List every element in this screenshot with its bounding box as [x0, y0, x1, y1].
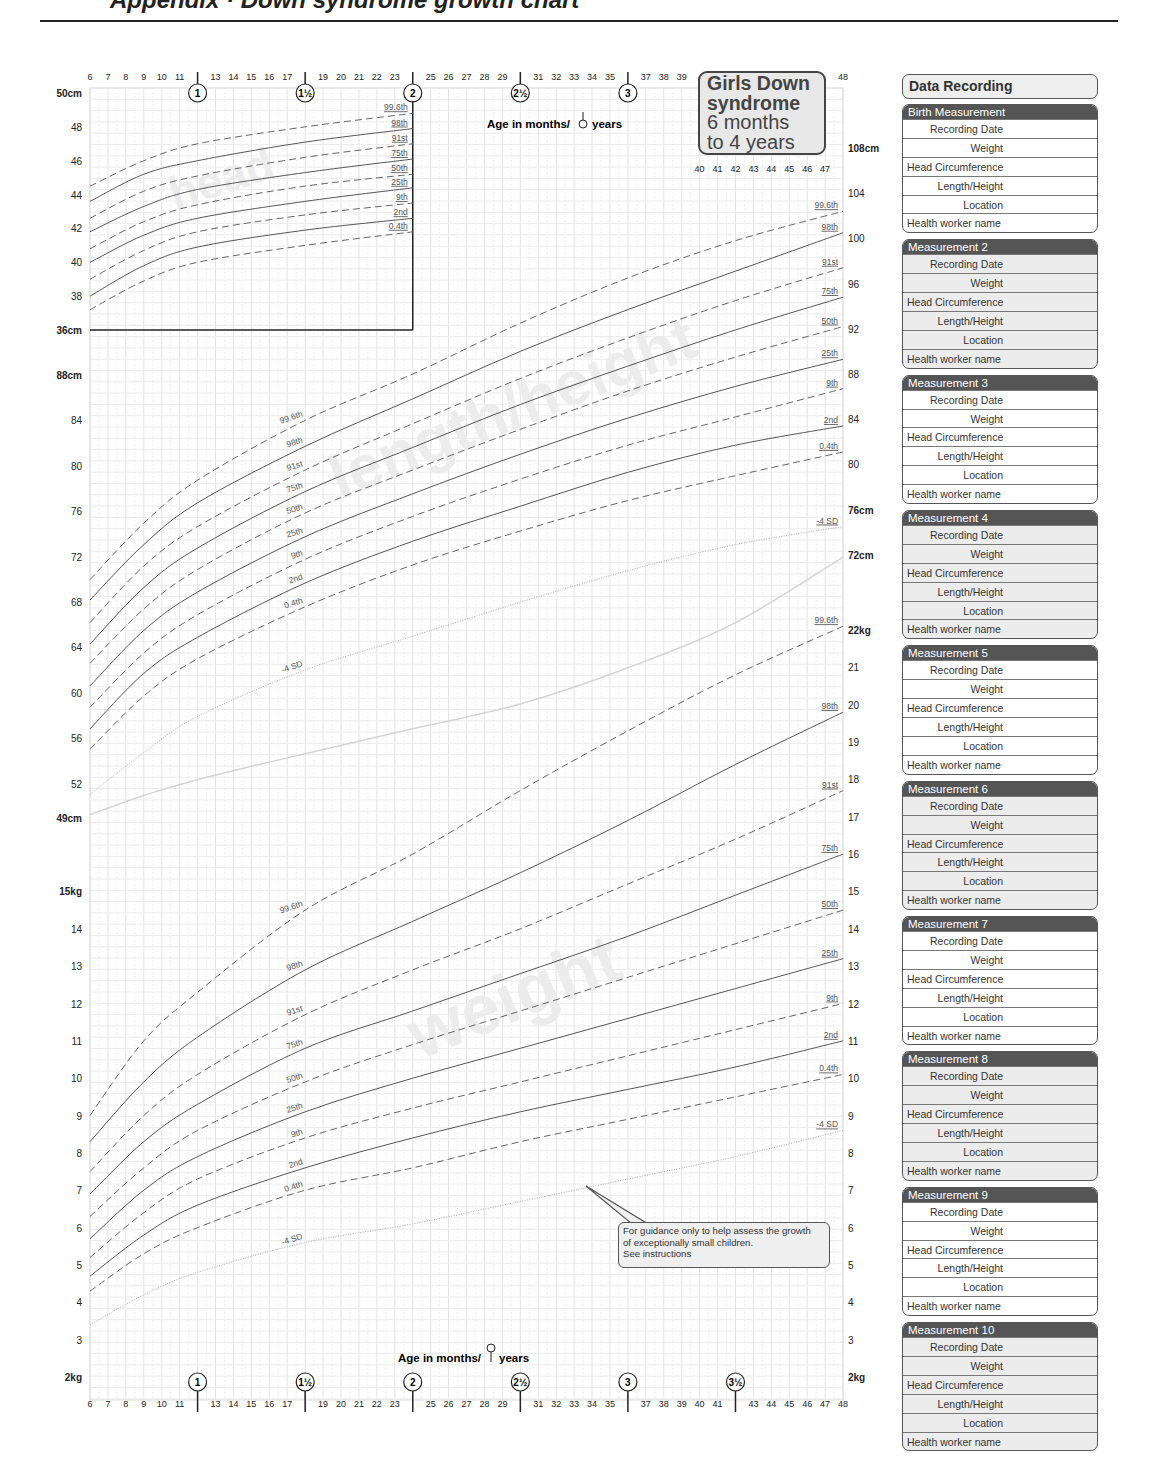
field-recording-date[interactable]: Recording Date	[903, 119, 1097, 138]
svg-text:25: 25	[426, 72, 436, 82]
field-head-circumference[interactable]: Head Circumference	[903, 1375, 1097, 1394]
field-health-worker-name[interactable]: Health worker name	[903, 1161, 1097, 1180]
field-weight[interactable]: Weight	[903, 544, 1097, 563]
svg-text:1: 1	[195, 1377, 201, 1388]
field-weight[interactable]: Weight	[903, 815, 1097, 834]
svg-text:19: 19	[318, 72, 328, 82]
svg-text:8: 8	[123, 1399, 128, 1409]
field-length-height[interactable]: Length/Height	[903, 1394, 1097, 1413]
field-length-height[interactable]: Length/Height	[903, 582, 1097, 601]
field-location[interactable]: Location	[903, 736, 1097, 755]
svg-text:45: 45	[784, 164, 794, 174]
svg-text:41: 41	[713, 1399, 723, 1409]
field-location[interactable]: Location	[903, 1142, 1097, 1161]
field-health-worker-name[interactable]: Health worker name	[903, 1432, 1097, 1451]
field-recording-date[interactable]: Recording Date	[903, 390, 1097, 409]
svg-text:37: 37	[641, 1399, 651, 1409]
field-location[interactable]: Location	[903, 195, 1097, 214]
svg-text:9th: 9th	[289, 1126, 304, 1139]
field-weight[interactable]: Weight	[903, 950, 1097, 969]
field-length-height[interactable]: Length/Height	[903, 311, 1097, 330]
field-weight[interactable]: Weight	[903, 679, 1097, 698]
field-health-worker-name[interactable]: Health worker name	[903, 349, 1097, 368]
field-recording-date[interactable]: Recording Date	[903, 796, 1097, 815]
field-head-circumference[interactable]: Head Circumference	[903, 1104, 1097, 1123]
svg-text:75th: 75th	[822, 286, 839, 296]
svg-text:-4 SD: -4 SD	[280, 658, 304, 674]
measurement-card: Measurement 9Recording DateWeightHead Ci…	[902, 1187, 1098, 1316]
svg-text:45: 45	[784, 1399, 794, 1409]
field-weight[interactable]: Weight	[903, 1085, 1097, 1104]
svg-text:39: 39	[677, 72, 687, 82]
field-head-circumference[interactable]: Head Circumference	[903, 698, 1097, 717]
field-health-worker-name[interactable]: Health worker name	[903, 619, 1097, 638]
field-health-worker-name[interactable]: Health worker name	[903, 484, 1097, 503]
svg-text:42: 42	[730, 164, 740, 174]
svg-text:17: 17	[282, 72, 292, 82]
field-length-height[interactable]: Length/Height	[903, 1258, 1097, 1277]
field-recording-date[interactable]: Recording Date	[903, 660, 1097, 679]
field-recording-date[interactable]: Recording Date	[903, 254, 1097, 273]
field-location[interactable]: Location	[903, 1277, 1097, 1296]
svg-text:35: 35	[605, 1399, 615, 1409]
field-length-height[interactable]: Length/Height	[903, 717, 1097, 736]
field-recording-date[interactable]: Recording Date	[903, 931, 1097, 950]
field-location[interactable]: Location	[903, 1007, 1097, 1026]
svg-text:52: 52	[71, 779, 83, 790]
field-health-worker-name[interactable]: Health worker name	[903, 755, 1097, 774]
field-location[interactable]: Location	[903, 601, 1097, 620]
field-health-worker-name[interactable]: Health worker name	[903, 890, 1097, 909]
field-head-circumference[interactable]: Head Circumference	[903, 969, 1097, 988]
svg-text:9: 9	[141, 72, 146, 82]
field-health-worker-name[interactable]: Health worker name	[903, 1296, 1097, 1315]
field-length-height[interactable]: Length/Height	[903, 176, 1097, 195]
field-recording-date[interactable]: Recording Date	[903, 1066, 1097, 1085]
field-location[interactable]: Location	[903, 871, 1097, 890]
field-length-height[interactable]: Length/Height	[903, 446, 1097, 465]
svg-text:91st: 91st	[285, 1003, 304, 1018]
field-length-height[interactable]: Length/Height	[903, 852, 1097, 871]
field-health-worker-name[interactable]: Health worker name	[903, 1026, 1097, 1045]
field-location[interactable]: Location	[903, 1413, 1097, 1432]
field-head-circumference[interactable]: Head Circumference	[903, 834, 1097, 853]
measurement-card: Measurement 8Recording DateWeightHead Ci…	[902, 1051, 1098, 1180]
field-head-circumference[interactable]: Head Circumference	[903, 563, 1097, 582]
field-health-worker-name[interactable]: Health worker name	[903, 213, 1097, 232]
svg-text:75th: 75th	[391, 148, 408, 158]
svg-text:76cm: 76cm	[848, 505, 874, 516]
field-head-circumference[interactable]: Head Circumference	[903, 427, 1097, 446]
svg-text:15: 15	[246, 72, 256, 82]
field-head-circumference[interactable]: Head Circumference	[903, 157, 1097, 176]
svg-text:-4 SD: -4 SD	[816, 1119, 838, 1129]
field-location[interactable]: Location	[903, 465, 1097, 484]
svg-text:9: 9	[141, 1399, 146, 1409]
svg-text:43: 43	[748, 164, 758, 174]
svg-text:37: 37	[641, 72, 651, 82]
field-recording-date[interactable]: Recording Date	[903, 1337, 1097, 1356]
field-length-height[interactable]: Length/Height	[903, 1123, 1097, 1142]
field-recording-date[interactable]: Recording Date	[903, 1202, 1097, 1221]
svg-text:44: 44	[71, 190, 83, 201]
field-weight[interactable]: Weight	[903, 273, 1097, 292]
field-head-circumference[interactable]: Head Circumference	[903, 292, 1097, 311]
svg-text:21: 21	[354, 1399, 364, 1409]
svg-text:15: 15	[246, 1399, 256, 1409]
svg-text:11: 11	[848, 1036, 859, 1047]
field-location[interactable]: Location	[903, 330, 1097, 349]
field-weight[interactable]: Weight	[903, 409, 1097, 428]
measurement-card-title: Measurement 4	[903, 511, 1097, 525]
field-head-circumference[interactable]: Head Circumference	[903, 1240, 1097, 1259]
svg-text:2: 2	[410, 88, 416, 99]
field-weight[interactable]: Weight	[903, 138, 1097, 157]
svg-text:31: 31	[533, 1399, 543, 1409]
field-weight[interactable]: Weight	[903, 1221, 1097, 1240]
svg-text:88: 88	[848, 369, 860, 380]
field-weight[interactable]: Weight	[903, 1356, 1097, 1375]
svg-text:6: 6	[87, 1399, 92, 1409]
svg-text:72: 72	[71, 552, 83, 563]
svg-text:40: 40	[71, 257, 83, 268]
field-length-height[interactable]: Length/Height	[903, 988, 1097, 1007]
field-recording-date[interactable]: Recording Date	[903, 525, 1097, 544]
svg-text:25th: 25th	[285, 525, 304, 540]
svg-text:50th: 50th	[822, 899, 839, 909]
